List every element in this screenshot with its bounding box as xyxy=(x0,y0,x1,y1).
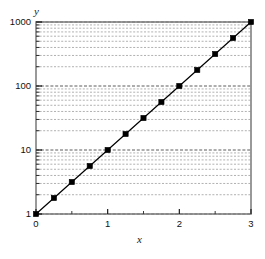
data-point-marker xyxy=(248,19,253,24)
x-tick-label: 2 xyxy=(167,219,191,229)
data-point-marker xyxy=(33,211,38,216)
y-axis-ticks xyxy=(36,22,42,214)
data-point-marker xyxy=(123,131,128,136)
y-tick-label: 1 xyxy=(2,209,31,219)
data-point-marker xyxy=(51,195,56,200)
chart-container: y x 1101001000 0123 xyxy=(0,0,265,259)
y-tick-label: 100 xyxy=(2,81,31,91)
x-tick-label: 3 xyxy=(239,219,263,229)
data-point-marker xyxy=(195,67,200,72)
x-tick-label: 0 xyxy=(24,219,48,229)
y-axis-title: y xyxy=(34,6,39,17)
x-tick-label: 1 xyxy=(96,219,120,229)
data-point-marker xyxy=(105,147,110,152)
data-point-marker xyxy=(159,99,164,104)
data-point-marker xyxy=(230,35,235,40)
x-axis-title: x xyxy=(137,234,142,245)
data-point-marker xyxy=(69,179,74,184)
data-point-marker xyxy=(177,83,182,88)
y-tick-label: 1000 xyxy=(2,17,31,27)
data-point-marker xyxy=(141,115,146,120)
data-point-marker xyxy=(87,163,92,168)
data-point-marker xyxy=(213,51,218,56)
y-tick-label: 10 xyxy=(2,145,31,155)
